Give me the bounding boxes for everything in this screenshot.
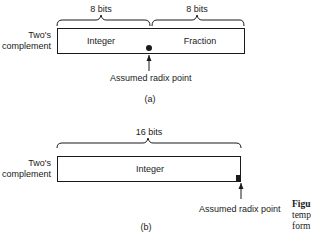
brace-fraction-8-bits [152,15,244,26]
field-integer-a: Integer [76,36,126,46]
bit-width-label-16: 16 bits [128,127,170,137]
row-label-line1-b: Two's [0,158,51,168]
field-integer-b: Integer [125,164,175,174]
brace-16-bits [57,138,241,148]
bit-width-label-integer: 8 bits [80,4,122,14]
arrow-up-icon [147,55,152,61]
row-label-line2-b: complement [0,169,51,179]
figure-caption-line1: Figu [292,199,310,210]
row-label-line1-a: Two's [0,30,51,40]
field-fraction-a: Fraction [170,36,230,46]
radix-point-label-b: Assumed radix point [199,204,281,214]
part-tag-a: (a) [138,94,162,104]
part-tag-b: (b) [134,222,158,232]
bit-width-label-fraction: 8 bits [176,4,218,14]
figure-caption-line3: form [292,221,310,232]
figure-caption-line2: temp [292,210,311,221]
arrow-up-icon [239,183,244,189]
row-label-line2-a: complement [0,41,51,51]
radix-point-label-a: Assumed radix point [110,73,192,83]
radix-point-dot-a [146,45,152,51]
brace-integer-8-bits [57,15,150,26]
radix-point-dot-b [236,175,241,181]
